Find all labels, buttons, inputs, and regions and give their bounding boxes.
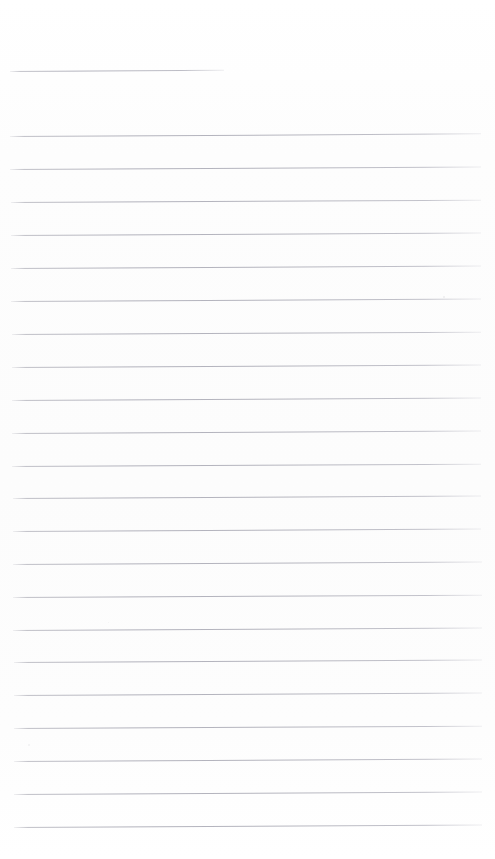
rule-line xyxy=(13,496,481,499)
ruled-lines-layer xyxy=(0,0,495,859)
lined-paper-page xyxy=(0,0,495,859)
top-short-rule xyxy=(10,70,224,72)
rule-line xyxy=(11,265,481,269)
rule-line xyxy=(11,299,481,302)
rule-line xyxy=(11,200,481,203)
rule-line xyxy=(13,595,482,598)
rule-line xyxy=(12,464,481,467)
rule-line xyxy=(14,759,482,762)
rule-line xyxy=(10,133,481,137)
rule-line xyxy=(14,825,482,828)
rule-line xyxy=(12,431,481,434)
rule-line xyxy=(13,528,481,532)
rule-line xyxy=(14,726,482,729)
rule-line xyxy=(12,365,481,368)
rule-line xyxy=(12,332,481,335)
rule-line xyxy=(14,791,482,795)
rule-line xyxy=(13,562,482,565)
rule-line xyxy=(11,233,481,236)
rule-line xyxy=(14,693,482,696)
rule-line xyxy=(13,628,482,631)
rule-line xyxy=(14,659,482,663)
rule-line xyxy=(12,397,481,401)
rule-line xyxy=(10,167,481,170)
